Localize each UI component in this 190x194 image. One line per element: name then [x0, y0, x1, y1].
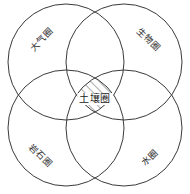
label-pedosphere: 土壤圈	[77, 93, 113, 105]
venn-diagram-figure: 大气圈 生物圈 岩石圈 水圈 土壤圈	[0, 0, 190, 194]
